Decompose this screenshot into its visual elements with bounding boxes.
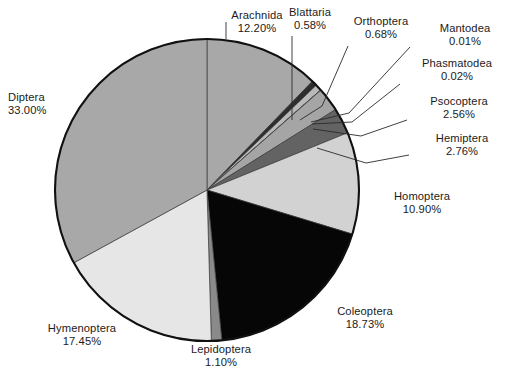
pie-label-blattaria: Blattaria0.58%	[275, 6, 345, 33]
pie-chart: Arachnida12.20%Blattaria0.58%Orthoptera0…	[0, 0, 506, 381]
pie-label-name-blattaria: Blattaria	[275, 6, 345, 19]
pie-label-value-hemiptera: 2.76%	[420, 145, 504, 158]
pie-label-name-hemiptera: Hemiptera	[420, 132, 504, 145]
pie-label-lepidoptera: Lepidoptera1.10%	[177, 343, 265, 370]
pie-label-name-homoptera: Homoptera	[380, 190, 464, 203]
pie-label-value-coleoptera: 18.73%	[323, 318, 407, 331]
pie-label-name-hymenoptera: Hymenoptera	[27, 322, 137, 335]
pie-label-hemiptera: Hemiptera2.76%	[420, 132, 504, 159]
pie-label-diptera: Diptera33.00%	[8, 91, 78, 118]
pie-label-homoptera: Homoptera10.90%	[380, 190, 464, 217]
pie-label-mantodea: Mantodea0.01%	[426, 22, 504, 49]
pie-label-phasmatodea: Phasmatodea0.02%	[410, 57, 504, 84]
pie-label-value-homoptera: 10.90%	[380, 203, 464, 216]
pie-label-name-mantodea: Mantodea	[426, 22, 504, 35]
pie-label-value-orthoptera: 0.68%	[340, 28, 422, 41]
pie-label-name-diptera: Diptera	[8, 91, 78, 104]
pie-label-name-lepidoptera: Lepidoptera	[177, 343, 265, 356]
pie-label-name-psocoptera: Psocoptera	[414, 95, 504, 108]
pie-label-psocoptera: Psocoptera2.56%	[414, 95, 504, 122]
pie-label-name-orthoptera: Orthoptera	[340, 15, 422, 28]
pie-label-hymenoptera: Hymenoptera17.45%	[27, 322, 137, 349]
pie-label-orthoptera: Orthoptera0.68%	[340, 15, 422, 42]
pie-label-value-psocoptera: 2.56%	[414, 108, 504, 121]
pie-label-value-hymenoptera: 17.45%	[27, 335, 137, 348]
pie-label-coleoptera: Coleoptera18.73%	[323, 305, 407, 332]
pie-label-value-diptera: 33.00%	[8, 104, 78, 117]
pie-label-value-phasmatodea: 0.02%	[410, 70, 504, 83]
pie-label-value-mantodea: 0.01%	[426, 35, 504, 48]
pie-slice-group	[55, 39, 359, 341]
pie-label-value-blattaria: 0.58%	[275, 19, 345, 32]
pie-label-value-lepidoptera: 1.10%	[177, 356, 265, 369]
pie-label-name-coleoptera: Coleoptera	[323, 305, 407, 318]
pie-label-name-phasmatodea: Phasmatodea	[410, 57, 504, 70]
